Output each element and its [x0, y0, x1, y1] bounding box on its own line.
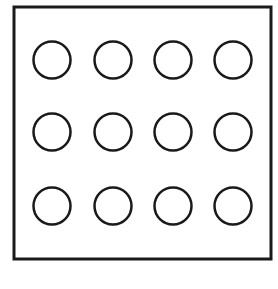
grid-of-circles-diagram	[0, 0, 278, 289]
figure-canvas	[0, 0, 278, 289]
